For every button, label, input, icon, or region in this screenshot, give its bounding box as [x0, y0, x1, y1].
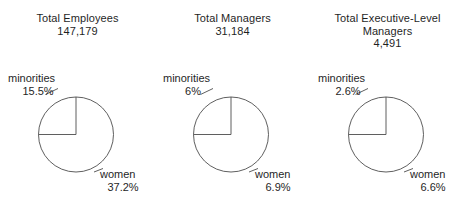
minorities-label-name: minorities: [318, 72, 388, 85]
pie-chart-figure: Total Employees 147,179 minorities 15.5%…: [0, 0, 465, 206]
women-label-percent: 6.6%: [410, 181, 456, 194]
chart-panel-total-managers: Total Managers 31,184 minorities 6% wome…: [155, 0, 310, 206]
chart-title-line-3: 4,491: [310, 37, 465, 50]
minorities-label-name: minorities: [8, 72, 78, 85]
minorities-label-percent: 2.6%: [318, 85, 378, 98]
women-label-name: women: [255, 168, 310, 181]
women-label-name: women: [100, 168, 155, 181]
women-label-percent: 6.9%: [255, 181, 301, 194]
chart-title-line-2: 147,179: [0, 25, 155, 38]
minorities-label-name: minorities: [163, 72, 233, 85]
chart-title-block: Total Managers 31,184: [155, 12, 310, 37]
minorities-label-percent: 6%: [163, 85, 223, 98]
chart-title-line-2: 31,184: [155, 25, 310, 38]
chart-title-block: Total Executive-Level Managers 4,491: [310, 12, 465, 50]
women-label-percent: 37.2%: [100, 181, 146, 194]
minorities-label: minorities 2.6%: [318, 72, 388, 97]
chart-panel-total-employees: Total Employees 147,179 minorities 15.5%…: [0, 0, 155, 206]
women-label: women 6.9%: [255, 168, 310, 193]
chart-title-line-1: Total Managers: [155, 12, 310, 25]
chart-title-line-1: Total Executive-Level: [310, 12, 465, 25]
minorities-label: minorities 15.5%: [8, 72, 78, 97]
minorities-label: minorities 6%: [163, 72, 233, 97]
chart-title-line-1: Total Employees: [0, 12, 155, 25]
women-label-name: women: [410, 168, 465, 181]
chart-panel-total-executive-level-managers: Total Executive-Level Managers 4,491 min…: [310, 0, 465, 206]
chart-title-line-2: Managers: [310, 25, 465, 38]
minorities-label-percent: 15.5%: [8, 85, 68, 98]
women-label: women 37.2%: [100, 168, 155, 193]
chart-title-block: Total Employees 147,179: [0, 12, 155, 37]
women-label: women 6.6%: [410, 168, 465, 193]
